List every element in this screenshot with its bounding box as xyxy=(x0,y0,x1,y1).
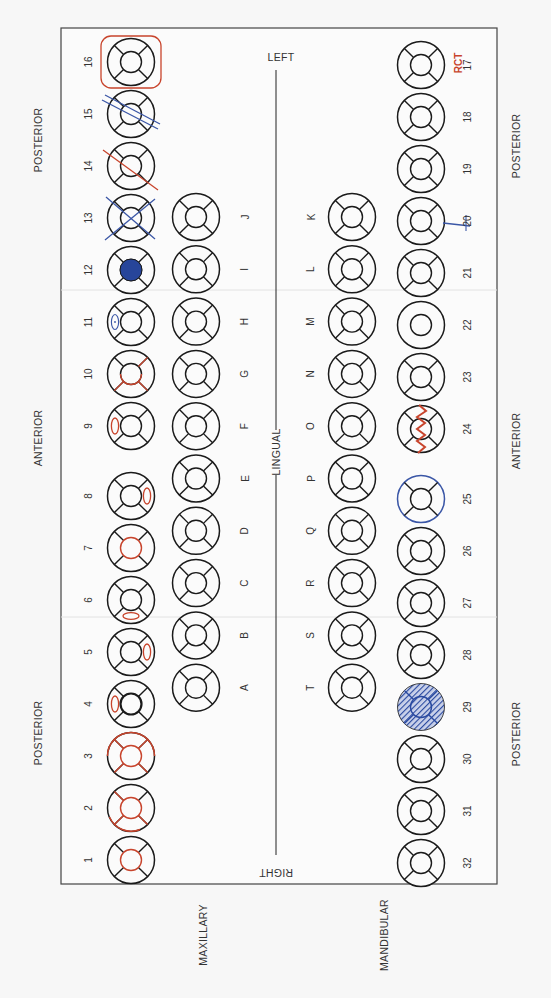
tooth-letter: I xyxy=(240,268,251,271)
tooth-B[interactable] xyxy=(173,612,220,659)
tooth-T[interactable] xyxy=(329,664,376,711)
tooth-8[interactable] xyxy=(108,473,155,520)
tooth-occlusal xyxy=(121,642,142,663)
outer-right-anterior: ANTERIOR xyxy=(510,413,522,470)
tooth-F[interactable] xyxy=(173,403,220,450)
tooth-number: 6 xyxy=(83,597,94,603)
tooth-letter: T xyxy=(306,685,317,691)
outer-right-posterior-top: POSTERIOR xyxy=(510,114,522,179)
tooth-S[interactable] xyxy=(329,612,376,659)
tooth-11[interactable] xyxy=(108,299,155,346)
tooth-7[interactable] xyxy=(108,525,155,572)
tooth-occlusal xyxy=(411,419,432,440)
tooth-D[interactable] xyxy=(173,507,220,554)
tooth-Q[interactable] xyxy=(329,507,376,554)
tooth-21[interactable] xyxy=(398,250,445,297)
tooth-25[interactable] xyxy=(398,476,445,523)
tooth-4[interactable] xyxy=(108,681,155,728)
tooth-19[interactable] xyxy=(398,146,445,193)
tooth-6[interactable] xyxy=(108,577,155,624)
tooth-letter: A xyxy=(240,684,251,691)
tooth-occlusal xyxy=(186,573,207,594)
tooth-number: 32 xyxy=(462,857,473,869)
tooth-32[interactable] xyxy=(398,840,445,887)
tooth-occlusal xyxy=(342,625,363,646)
tooth-J[interactable] xyxy=(173,194,220,241)
tooth-30[interactable] xyxy=(398,736,445,783)
tooth-E[interactable] xyxy=(173,455,220,502)
tooth-K[interactable] xyxy=(329,194,376,241)
tooth-I[interactable] xyxy=(173,246,220,293)
tooth-5[interactable] xyxy=(108,629,155,676)
tooth-occlusal xyxy=(186,625,207,646)
tooth-occlusal xyxy=(411,645,432,666)
tooth-number: 14 xyxy=(83,160,94,172)
tooth-number: 16 xyxy=(83,56,94,68)
tooth-G[interactable] xyxy=(173,350,220,397)
tooth-number: 22 xyxy=(462,319,473,331)
tooth-17[interactable] xyxy=(398,42,445,89)
label-left: LEFT xyxy=(268,51,295,63)
tooth-22[interactable] xyxy=(398,302,445,349)
tooth-number: 3 xyxy=(83,753,94,759)
tooth-occlusal xyxy=(411,697,432,718)
tooth-31[interactable] xyxy=(398,788,445,835)
tooth-10[interactable] xyxy=(108,351,155,398)
outer-left-anterior: ANTERIOR xyxy=(32,410,44,467)
tooth-number: 25 xyxy=(462,493,473,505)
tooth-N[interactable] xyxy=(329,350,376,397)
tooth-occlusal xyxy=(121,416,142,437)
tooth-occlusal xyxy=(186,416,207,437)
tooth-M[interactable] xyxy=(329,298,376,345)
tooth-number: 27 xyxy=(462,597,473,609)
tooth-12[interactable] xyxy=(108,247,155,294)
tooth-P[interactable] xyxy=(329,455,376,502)
tooth-occlusal xyxy=(186,468,207,489)
tooth-A[interactable] xyxy=(173,664,220,711)
tooth-29[interactable] xyxy=(398,684,445,731)
outer-left-posterior-top: POSTERIOR xyxy=(32,108,44,173)
dental-chart: LEFT LINGUAL RIGHT POSTERIOR ANTERIOR PO… xyxy=(0,0,551,998)
tooth-3[interactable] xyxy=(108,733,155,780)
tooth-occlusal xyxy=(121,746,142,767)
tooth-occlusal xyxy=(411,55,432,76)
tooth-letter: J xyxy=(240,215,251,220)
tooth-2[interactable] xyxy=(108,785,155,832)
tooth-number: 29 xyxy=(462,701,473,713)
tooth-number: 20 xyxy=(462,215,473,227)
tooth-occlusal xyxy=(121,312,142,333)
tooth-occlusal xyxy=(121,156,142,177)
tooth-occlusal xyxy=(186,363,207,384)
tooth-number: 19 xyxy=(462,163,473,175)
tooth-O[interactable] xyxy=(329,403,376,450)
rct-note: RCT xyxy=(453,53,464,74)
tooth-letter: S xyxy=(306,632,317,639)
tooth-26[interactable] xyxy=(398,528,445,575)
blue-filled-mark xyxy=(120,259,142,281)
tooth-letter: M xyxy=(306,317,317,325)
tooth-18[interactable] xyxy=(398,94,445,141)
tooth-1[interactable] xyxy=(108,837,155,884)
tooth-occlusal xyxy=(121,52,142,73)
tooth-27[interactable] xyxy=(398,580,445,627)
tooth-number: 31 xyxy=(462,805,473,817)
tooth-9[interactable] xyxy=(108,403,155,450)
tooth-H[interactable] xyxy=(173,298,220,345)
tooth-letter: Q xyxy=(306,527,317,535)
label-lingual: LINGUAL xyxy=(270,428,282,475)
tooth-R[interactable] xyxy=(329,560,376,607)
tooth-occlusal xyxy=(186,259,207,280)
tooth-L[interactable] xyxy=(329,246,376,293)
tooth-occlusal xyxy=(342,311,363,332)
tooth-number: 8 xyxy=(83,493,94,499)
tooth-occlusal xyxy=(186,311,207,332)
tooth-28[interactable] xyxy=(398,632,445,679)
tooth-23[interactable] xyxy=(398,354,445,401)
tooth-occlusal xyxy=(342,416,363,437)
tooth-number: 28 xyxy=(462,649,473,661)
outer-right-posterior-bottom: POSTERIOR xyxy=(510,702,522,767)
tooth-24[interactable] xyxy=(398,405,445,453)
tooth-number: 26 xyxy=(462,545,473,557)
tooth-C[interactable] xyxy=(173,560,220,607)
tooth-occlusal xyxy=(411,593,432,614)
